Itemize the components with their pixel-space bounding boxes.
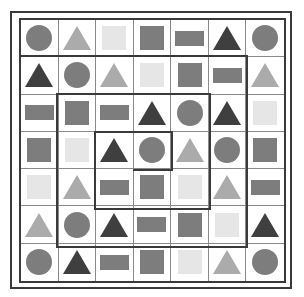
triangle-light-icon (213, 250, 241, 274)
square-vlight-icon (140, 63, 164, 87)
grid-cell-r1-c6[interactable] (246, 57, 284, 94)
triangle-light-icon (251, 63, 279, 87)
grid-cell-r0-c0[interactable] (21, 20, 59, 57)
rect-mid-icon (100, 105, 129, 120)
grid-cell-r1-c3[interactable] (134, 57, 172, 94)
grid-cell-r1-c4[interactable] (171, 57, 209, 94)
triangle-light-icon (25, 213, 53, 237)
grid-cell-r0-c4[interactable] (171, 20, 209, 57)
grid-cell-r6-c0[interactable] (21, 244, 59, 281)
grid-cell-r0-c3[interactable] (134, 20, 172, 57)
grid-cell-r4-c0[interactable] (21, 169, 59, 206)
grid-cell-r6-c3[interactable] (134, 244, 172, 281)
grid-cell-r3-c4[interactable] (171, 132, 209, 169)
square-mid-icon (140, 175, 164, 199)
circle-mid-icon (139, 137, 165, 163)
circle-mid-icon (177, 100, 203, 126)
grid-cell-r5-c1[interactable] (59, 206, 97, 243)
grid-cell-r4-c6[interactable] (246, 169, 284, 206)
triangle-light-icon (100, 63, 128, 87)
triangle-dark-icon (63, 250, 91, 274)
grid-cell-r4-c5[interactable] (209, 169, 247, 206)
grid-cell-r0-c1[interactable] (59, 20, 97, 57)
triangle-dark-icon (251, 213, 279, 237)
grid-cell-r5-c0[interactable] (21, 206, 59, 243)
puzzle-grid (19, 18, 286, 283)
grid-cell-r3-c3[interactable] (134, 132, 172, 169)
grid-cell-r4-c2[interactable] (96, 169, 134, 206)
grid-cell-r2-c1[interactable] (59, 95, 97, 132)
grid-cell-r4-c4[interactable] (171, 169, 209, 206)
circle-mid-icon (26, 25, 52, 51)
square-vlight-icon (178, 250, 202, 274)
triangle-light-icon (213, 175, 241, 199)
triangle-dark-icon (100, 213, 128, 237)
square-mid-icon (253, 138, 277, 162)
square-mid-icon (27, 138, 51, 162)
square-mid-icon (178, 63, 202, 87)
circle-mid-icon (64, 62, 90, 88)
grid-cell-r0-c5[interactable] (209, 20, 247, 57)
square-vlight-icon (215, 213, 239, 237)
rect-mid-icon (137, 217, 166, 232)
grid-cell-r5-c2[interactable] (96, 206, 134, 243)
grid-cell-r5-c3[interactable] (134, 206, 172, 243)
rect-mid-icon (175, 31, 204, 46)
grid-cell-r6-c5[interactable] (209, 244, 247, 281)
rect-mid-icon (251, 180, 280, 195)
grid-cell-r3-c5[interactable] (209, 132, 247, 169)
triangle-light-icon (176, 138, 204, 162)
square-mid-icon (140, 250, 164, 274)
grid-cell-r6-c1[interactable] (59, 244, 97, 281)
grid-cell-r0-c2[interactable] (96, 20, 134, 57)
grid-cell-r2-c6[interactable] (246, 95, 284, 132)
square-mid-icon (140, 26, 164, 50)
grid-cell-r2-c4[interactable] (171, 95, 209, 132)
grid-cell-r2-c2[interactable] (96, 95, 134, 132)
grid-cell-r5-c5[interactable] (209, 206, 247, 243)
triangle-light-icon (63, 26, 91, 50)
triangle-dark-icon (100, 138, 128, 162)
grid-cell-r2-c3[interactable] (134, 95, 172, 132)
rect-mid-icon (213, 68, 242, 83)
circle-mid-icon (252, 249, 278, 275)
circle-mid-icon (214, 137, 240, 163)
square-vlight-icon (102, 26, 126, 50)
grid-cell-r6-c6[interactable] (246, 244, 284, 281)
rect-mid-icon (100, 255, 129, 270)
square-vlight-icon (65, 138, 89, 162)
triangle-dark-icon (213, 101, 241, 125)
grid-cell-r4-c1[interactable] (59, 169, 97, 206)
grid-cell-r1-c1[interactable] (59, 57, 97, 94)
square-vlight-icon (178, 175, 202, 199)
square-mid-icon (65, 101, 89, 125)
square-vlight-icon (27, 175, 51, 199)
grid-cell-r6-c2[interactable] (96, 244, 134, 281)
grid-cell-r2-c5[interactable] (209, 95, 247, 132)
triangle-dark-icon (213, 26, 241, 50)
triangle-dark-icon (25, 63, 53, 87)
grid-cell-r5-c4[interactable] (171, 206, 209, 243)
rect-mid-icon (25, 105, 54, 120)
grid-cell-r6-c4[interactable] (171, 244, 209, 281)
grid-cell-r3-c6[interactable] (246, 132, 284, 169)
circle-mid-icon (64, 212, 90, 238)
grid-cell-r0-c6[interactable] (246, 20, 284, 57)
grid-cell-r1-c0[interactable] (21, 57, 59, 94)
grid-cell-r3-c2[interactable] (96, 132, 134, 169)
triangle-dark-icon (138, 101, 166, 125)
grid-cell-r5-c6[interactable] (246, 206, 284, 243)
square-mid-icon (178, 213, 202, 237)
grid-cell-r1-c5[interactable] (209, 57, 247, 94)
rect-mid-icon (100, 180, 129, 195)
circle-mid-icon (26, 249, 52, 275)
grid-cell-r3-c0[interactable] (21, 132, 59, 169)
grid-cell-r1-c2[interactable] (96, 57, 134, 94)
grid-cell-r2-c0[interactable] (21, 95, 59, 132)
grid-cell-r4-c3[interactable] (134, 169, 172, 206)
square-vlight-icon (253, 101, 277, 125)
triangle-light-icon (63, 175, 91, 199)
circle-mid-icon (252, 25, 278, 51)
grid-cell-r3-c1[interactable] (59, 132, 97, 169)
